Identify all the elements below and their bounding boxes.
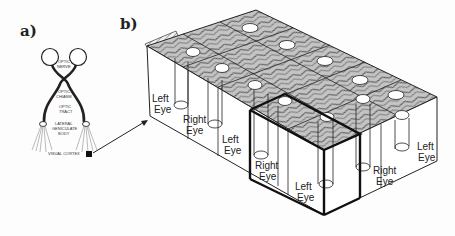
svg-text:Eye: Eye bbox=[418, 152, 436, 163]
svg-text:Eye: Eye bbox=[297, 192, 315, 203]
right-eyeball-icon bbox=[70, 49, 87, 66]
eye-label-left: Left bbox=[295, 181, 312, 192]
svg-text:Eye: Eye bbox=[376, 176, 394, 187]
visual-cortex-label: VISUAL CORTEX bbox=[48, 151, 80, 156]
eye-label-right: Right bbox=[183, 114, 207, 125]
eye-label-left: Left bbox=[417, 141, 434, 152]
cortex-block-diagram: Left Eye Right Eye Left Eye Right Eye Le… bbox=[145, 10, 437, 215]
svg-text:Eye: Eye bbox=[259, 171, 277, 182]
right-lgb-icon bbox=[83, 122, 90, 127]
eye-label-right: Right bbox=[255, 160, 279, 171]
svg-text:TRACT: TRACT bbox=[59, 109, 73, 114]
svg-text:CHIASM: CHIASM bbox=[56, 94, 72, 99]
svg-text:Eye: Eye bbox=[224, 145, 242, 156]
figure-canvas: OPTIC NERVE OPTIC CHIASM OPTIC TRACT LAT… bbox=[0, 0, 455, 236]
eye-label-right: Right bbox=[373, 165, 397, 176]
svg-text:BODY: BODY bbox=[58, 131, 70, 136]
svg-text:NERVE: NERVE bbox=[57, 64, 71, 69]
left-eyeball-icon bbox=[42, 49, 59, 66]
pointer-arrow bbox=[93, 121, 146, 153]
visual-pathway-diagram: OPTIC NERVE OPTIC CHIASM OPTIC TRACT LAT… bbox=[32, 49, 148, 158]
eye-label-left: Left bbox=[222, 134, 239, 145]
left-lgb-icon bbox=[40, 122, 47, 127]
ocular-dominance-figure: a) b) bbox=[0, 0, 455, 236]
svg-text:Eye: Eye bbox=[186, 125, 204, 136]
cortex-sample-square-icon bbox=[86, 151, 92, 157]
eye-label-left: Left bbox=[152, 93, 169, 104]
svg-text:Eye: Eye bbox=[154, 104, 172, 115]
